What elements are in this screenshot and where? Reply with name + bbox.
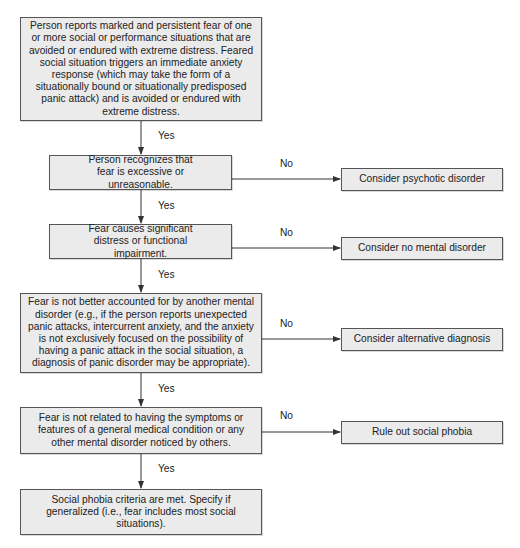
no-label-2: No xyxy=(280,227,293,238)
outcome-psychotic-text: Consider psychotic disorder xyxy=(359,173,485,185)
node-start: Person reports marked and persistent fea… xyxy=(20,17,262,121)
outcome-alternative: Consider alternative diagnosis xyxy=(341,328,503,351)
node-recognizes-text: Person recognizes that fear is excessive… xyxy=(80,154,201,191)
node-criteria-met-text: Social phobia criteria are met. Specify … xyxy=(43,494,239,531)
outcome-no-disorder: Consider no mental disorder xyxy=(341,237,503,260)
outcome-rule-out: Rule out social phobia xyxy=(341,421,503,444)
node-criteria-met: Social phobia criteria are met. Specify … xyxy=(20,489,262,535)
node-recognizes: Person recognizes that fear is excessive… xyxy=(49,155,232,190)
no-label-4: No xyxy=(280,410,293,421)
node-distress-text: Fear causes significant distress or func… xyxy=(72,223,209,260)
outcome-psychotic: Consider psychotic disorder xyxy=(341,168,503,191)
no-label-3: No xyxy=(280,318,293,329)
node-start-text: Person reports marked and persistent fea… xyxy=(25,20,257,118)
outcome-no-disorder-text: Consider no mental disorder xyxy=(358,242,486,254)
node-distress: Fear causes significant distress or func… xyxy=(49,224,232,259)
node-not-medical: Fear is not related to having the sympto… xyxy=(20,407,262,454)
yes-label-3: Yes xyxy=(158,269,175,280)
yes-label-5: Yes xyxy=(158,463,175,474)
no-label-1: No xyxy=(280,158,293,169)
outcome-rule-out-text: Rule out social phobia xyxy=(372,426,472,438)
node-not-other-disorder-text: Fear is not better accounted for by anot… xyxy=(25,296,257,369)
node-not-other-disorder: Fear is not better accounted for by anot… xyxy=(20,293,262,373)
yes-label-1: Yes xyxy=(158,130,175,141)
yes-label-2: Yes xyxy=(158,200,175,211)
yes-label-4: Yes xyxy=(158,383,175,394)
node-not-medical-text: Fear is not related to having the sympto… xyxy=(31,412,251,449)
outcome-alternative-text: Consider alternative diagnosis xyxy=(354,333,490,345)
